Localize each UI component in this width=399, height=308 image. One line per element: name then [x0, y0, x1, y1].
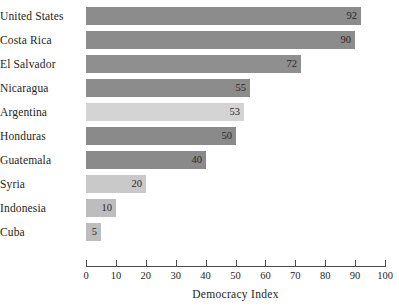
x-axis-tick	[355, 260, 356, 267]
category-label: Honduras	[0, 124, 72, 148]
x-axis-tick-label: 100	[365, 270, 399, 281]
bar-row: Honduras50	[0, 124, 399, 148]
bar-row: Nicaragua55	[0, 76, 399, 100]
category-label: Guatemala	[0, 148, 72, 172]
x-axis-tick	[385, 260, 386, 267]
bar-row: Guatemala40	[0, 148, 399, 172]
bar-row: United States92	[0, 4, 399, 28]
x-axis-tick	[116, 260, 117, 267]
x-axis-tick	[206, 260, 207, 267]
bar-row: Indonesia10	[0, 196, 399, 220]
bar-value-label: 20	[132, 175, 143, 193]
bar-row: Cuba5	[0, 220, 399, 244]
bar-value-label: 5	[92, 223, 97, 241]
bar: 90	[86, 31, 355, 49]
category-label: Nicaragua	[0, 76, 72, 100]
bar: 20	[86, 175, 146, 193]
bar: 5	[86, 223, 101, 241]
bar: 72	[86, 55, 301, 73]
bar: 10	[86, 199, 116, 217]
category-label: Syria	[0, 172, 72, 196]
bar-value-label: 40	[192, 151, 203, 169]
bar-value-label: 10	[102, 199, 113, 217]
x-axis-tick	[325, 260, 326, 267]
x-axis-tick	[236, 260, 237, 267]
category-label: Indonesia	[0, 196, 72, 220]
x-axis-tick	[295, 260, 296, 267]
bar-row: Argentina53	[0, 100, 399, 124]
category-label: Argentina	[0, 100, 72, 124]
x-axis-tick	[86, 260, 87, 267]
x-axis-tick	[146, 260, 147, 267]
bar: 50	[86, 127, 236, 145]
bar: 53	[86, 103, 244, 121]
bar-row: Costa Rica90	[0, 28, 399, 52]
x-axis-tick	[265, 260, 266, 267]
bar-row: Syria20	[0, 172, 399, 196]
category-label: El Salvador	[0, 52, 72, 76]
bar-value-label: 92	[347, 7, 358, 25]
category-label: Costa Rica	[0, 28, 72, 52]
x-axis-tick	[176, 260, 177, 267]
category-label: Cuba	[0, 220, 72, 244]
bar: 55	[86, 79, 250, 97]
bar-value-label: 55	[236, 79, 247, 97]
category-label: United States	[0, 4, 72, 28]
democracy-index-bar-chart: United States92Costa Rica90El Salvador72…	[0, 0, 399, 308]
bar-value-label: 90	[341, 31, 352, 49]
bar-value-label: 53	[230, 103, 241, 121]
bar-row: El Salvador72	[0, 52, 399, 76]
bar: 40	[86, 151, 206, 169]
bar: 92	[86, 7, 361, 25]
plot-area: United States92Costa Rica90El Salvador72…	[0, 0, 399, 308]
x-axis-title: Democracy Index	[86, 288, 385, 300]
bar-value-label: 50	[222, 127, 233, 145]
bar-value-label: 72	[287, 55, 298, 73]
